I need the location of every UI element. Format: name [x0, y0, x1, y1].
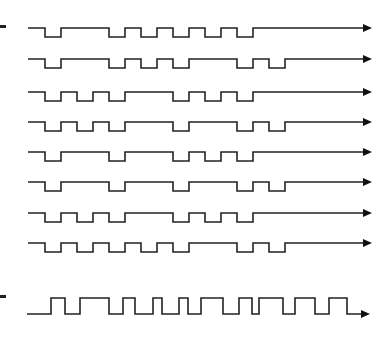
arrow-icon [361, 310, 370, 318]
signal-line [28, 28, 364, 37]
waveform-4 [28, 118, 372, 131]
waveform-8 [28, 239, 372, 252]
arrow-icon [363, 55, 372, 63]
arrow-icon [363, 118, 372, 126]
signal-line [27, 298, 362, 314]
waveform-7 [28, 209, 372, 222]
waveform-5 [28, 148, 372, 161]
top-marker [0, 25, 6, 28]
arrow-icon [363, 209, 372, 217]
signal-line [28, 122, 364, 131]
signal-line [28, 59, 364, 68]
waveform-3 [28, 88, 372, 101]
bottom-marker [0, 295, 6, 298]
combined-waveform [27, 298, 370, 318]
arrow-icon [363, 88, 372, 96]
arrow-icon [363, 24, 372, 32]
signal-line [28, 243, 364, 252]
signal-line [28, 92, 364, 101]
waveform-diagram [0, 0, 389, 341]
signal-line [28, 213, 364, 222]
waveform-6 [28, 178, 372, 191]
signal-line [28, 182, 364, 191]
arrow-icon [363, 239, 372, 247]
arrow-icon [363, 148, 372, 156]
waveform-1 [28, 24, 372, 37]
row-markers [0, 25, 6, 298]
code-waveforms [28, 24, 372, 252]
signal-line [28, 152, 364, 161]
arrow-icon [363, 178, 372, 186]
waveform-2 [28, 55, 372, 68]
